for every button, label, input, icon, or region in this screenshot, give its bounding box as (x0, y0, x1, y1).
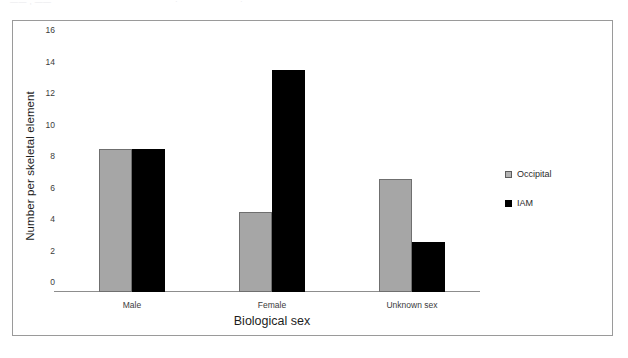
y-axis-title: Number per skeletal element (24, 40, 38, 292)
scan-bleed-text: —— , —— · · (0, 0, 628, 12)
scan-bleed-fragment-c: · (240, 0, 243, 6)
bar-occipital-unknown-sex[interactable] (379, 179, 412, 292)
y-axis-tick-label: 12 (46, 88, 55, 98)
y-axis-tick-label: 14 (46, 57, 55, 67)
y-axis-tick-label: 0 (50, 277, 55, 287)
y-axis-tick-label: 2 (50, 246, 55, 256)
y-axis-tick-label: 4 (50, 214, 55, 224)
legend-item-iam[interactable]: IAM (505, 197, 595, 209)
legend-label-iam: IAM (517, 198, 533, 208)
y-axis-tick-label: 6 (50, 183, 55, 193)
y-axis-zero-tick (54, 291, 62, 292)
x-axis-tick-label: Male (123, 300, 141, 310)
scan-bleed-fragment-b: · (175, 0, 178, 6)
plot-area: 0246810121416MaleFemaleUnknown sex (62, 40, 482, 292)
bar-iam-male[interactable] (132, 149, 165, 292)
y-axis-tick-label: 10 (46, 120, 55, 130)
y-axis-tick-label: 16 (46, 25, 55, 35)
bar-occipital-female[interactable] (239, 212, 272, 292)
legend-label-occipital: Occipital (517, 169, 552, 179)
legend-item-occipital[interactable]: Occipital (505, 168, 595, 180)
bar-occipital-male[interactable] (99, 149, 132, 292)
scan-bleed-fragment-a: —— , —— (10, 0, 51, 6)
x-axis-tick-label: Unknown sex (386, 300, 437, 310)
legend-swatch-occipital-icon (505, 171, 512, 178)
legend-swatch-iam-icon (505, 200, 512, 207)
bar-iam-unknown-sex[interactable] (412, 242, 445, 292)
chart-legend: Occipital IAM (505, 168, 595, 226)
x-axis-tick-label: Female (258, 300, 286, 310)
y-axis-tick-label: 8 (50, 151, 55, 161)
bar-iam-female[interactable] (272, 70, 305, 292)
x-axis-title: Biological sex (62, 314, 482, 328)
